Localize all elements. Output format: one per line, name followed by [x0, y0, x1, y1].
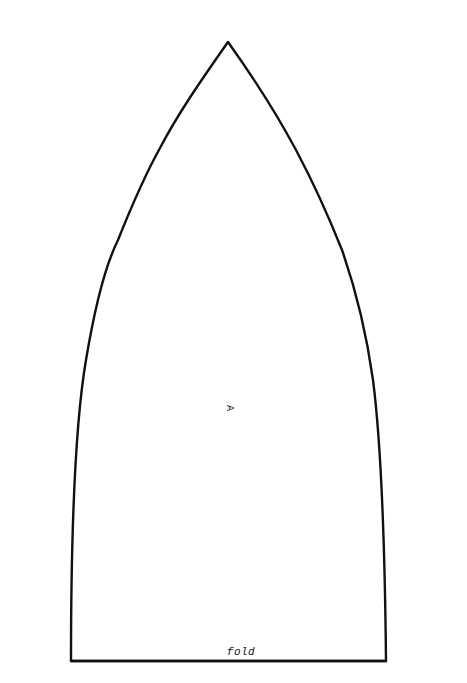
piece-letter-label: A	[222, 402, 236, 414]
pattern-piece-outline	[71, 42, 386, 661]
pattern-piece-diagram	[0, 0, 467, 683]
fold-label: fold	[216, 645, 266, 659]
pattern-sheet: A fold	[0, 0, 467, 683]
